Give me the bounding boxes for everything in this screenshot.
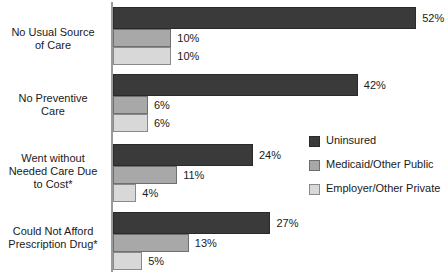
bar-employer-other-private [113,184,136,202]
bar-value-uninsured: 24% [259,150,281,161]
category-label-line: Needed Care Due [0,165,106,178]
legend-item-medicaid-other-public: Medicaid/Other Public [309,157,446,181]
bar-uninsured [113,144,253,166]
bar-value-uninsured: 52% [422,13,444,24]
category-label-line: Care [0,105,106,118]
category-label-line: Prescription Drug* [0,238,106,251]
legend-item-uninsured: Uninsured [309,133,446,157]
bar-employer-other-private [113,114,148,132]
legend-swatch-icon [309,136,320,147]
bar-value-medicaid-other-public: 13% [195,238,217,249]
bar-medicaid-other-public [113,96,148,114]
category-label-no-preventive-care: No Preventive Care [0,92,106,118]
bar-value-medicaid-other-public: 6% [154,100,170,111]
bar-medicaid-other-public [113,234,189,252]
category-label-could-not-afford-prescription-drug: Could Not Afford Prescription Drug* [0,225,106,251]
bar-value-employer-other-private: 5% [148,256,164,267]
bar-uninsured [113,7,416,29]
legend-swatch-icon [309,160,320,171]
bar-value-uninsured: 42% [364,80,386,91]
bar-employer-other-private [113,47,171,65]
bar-value-employer-other-private: 6% [154,118,170,129]
legend-item-employer-other-private: Employer/Other Private [309,181,446,205]
category-label-line: of Care [0,39,106,52]
category-label-line: No Preventive [0,92,106,105]
bar-value-medicaid-other-public: 10% [177,33,199,44]
bar-medicaid-other-public [113,166,177,184]
bar-chart: No Usual Source of Care No Preventive Ca… [0,0,446,278]
legend-label: Employer/Other Private [326,182,440,195]
bar-medicaid-other-public [113,29,171,47]
bar-employer-other-private [113,252,142,270]
legend-label: Uninsured [326,134,376,147]
bar-value-employer-other-private: 10% [177,51,199,62]
legend-label: Medicaid/Other Public [326,158,434,171]
legend-swatch-icon [309,184,320,195]
bar-value-uninsured: 27% [276,218,298,229]
category-label-line: Could Not Afford [0,225,106,238]
legend: Uninsured Medicaid/Other Public Employer… [309,133,446,205]
category-label-no-usual-source-of-care: No Usual Source of Care [0,26,106,52]
bar-uninsured [113,212,270,234]
bar-value-employer-other-private: 4% [142,188,158,199]
category-label-line: No Usual Source [0,26,106,39]
category-label-went-without-needed-care: Went without Needed Care Due to Cost* [0,152,106,191]
bar-value-medicaid-other-public: 11% [183,170,204,181]
bar-uninsured [113,74,358,96]
category-label-line: Went without [0,152,106,165]
category-label-line: to Cost* [0,178,106,191]
